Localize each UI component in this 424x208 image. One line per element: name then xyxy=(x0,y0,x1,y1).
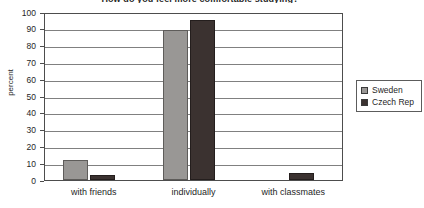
x-axis-category-label: with classmates xyxy=(243,186,343,198)
bar-czech-rep-with-classmates xyxy=(289,173,314,180)
legend-item[interactable]: Czech Rep xyxy=(361,96,418,108)
legend-label: Czech Rep xyxy=(372,97,414,107)
y-axis-tick-label: 70 xyxy=(4,59,36,68)
y-axis-tick-label: 90 xyxy=(4,25,36,34)
y-axis-tick-label: 0 xyxy=(4,177,36,186)
y-axis-tick-label: 30 xyxy=(4,126,36,135)
y-axis-tick-label: 100 xyxy=(4,9,36,18)
bar-czech-rep-individually xyxy=(190,20,215,180)
x-axis-category-labels: with friendsindividuallywith classmates xyxy=(44,186,343,200)
x-axis-category-label: individually xyxy=(144,186,244,198)
bar-chart: How do you feel more comfortable studyin… xyxy=(0,0,424,208)
chart-legend: SwedenCzech Rep xyxy=(356,80,422,112)
x-axis-category-label: with friends xyxy=(44,186,144,198)
y-axis-tick-label: 40 xyxy=(4,109,36,118)
bar-sweden-individually xyxy=(163,30,188,180)
plot-area xyxy=(44,13,343,181)
bar-sweden-with-friends xyxy=(63,160,88,180)
bar-czech-rep-with-friends xyxy=(90,175,115,180)
y-axis-tick-label: 20 xyxy=(4,143,36,152)
y-axis-tick-label: 50 xyxy=(4,93,36,102)
y-axis: 1009080706050403020100 xyxy=(0,13,44,181)
legend-label: Sweden xyxy=(372,85,403,95)
chart-title: How do you feel more comfortable studyin… xyxy=(0,0,400,3)
legend-swatch-icon xyxy=(361,99,368,106)
legend-item[interactable]: Sweden xyxy=(361,84,418,96)
y-axis-tick-label: 10 xyxy=(4,160,36,169)
y-axis-tick-label: 80 xyxy=(4,42,36,51)
legend-swatch-icon xyxy=(361,87,368,94)
y-axis-tick-label: 60 xyxy=(4,76,36,85)
